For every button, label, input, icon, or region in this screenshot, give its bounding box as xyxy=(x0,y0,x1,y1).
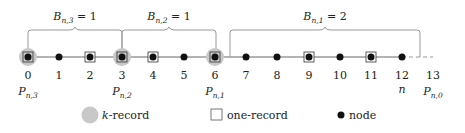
svg-text:11: 11 xyxy=(364,69,378,82)
node-8 xyxy=(274,54,281,61)
one-record-4 xyxy=(148,52,158,62)
svg-text:0: 0 xyxy=(25,69,32,82)
node-1 xyxy=(56,54,63,61)
svg-text:Bn,3 = 1: Bn,3 = 1 xyxy=(52,10,96,25)
svg-text:13: 13 xyxy=(426,69,440,82)
svg-text:2: 2 xyxy=(87,69,94,82)
svg-text:3: 3 xyxy=(119,69,126,82)
one-record-9 xyxy=(304,52,314,62)
svg-text:Pn,1: Pn,1 xyxy=(204,85,224,100)
node-5 xyxy=(181,54,188,61)
svg-text:8: 8 xyxy=(274,69,281,82)
svg-text:7: 7 xyxy=(243,69,250,82)
node-10 xyxy=(337,54,344,61)
svg-text:node: node xyxy=(349,109,376,122)
svg-text:10: 10 xyxy=(333,69,347,82)
svg-text:Pn,0: Pn,0 xyxy=(422,85,443,100)
svg-text:one-record: one-record xyxy=(227,109,288,122)
brace-b-n3: Bn,3 = 1 xyxy=(28,10,122,57)
brace-b-n1: Bn,1 = 2 xyxy=(230,10,420,57)
svg-text:n: n xyxy=(398,83,405,96)
svg-text:5: 5 xyxy=(181,69,188,82)
record-diagram: Bn,3 = 1 Bn,2 = 1 Bn,1 = 2 0 1 2 3 4 5 6… xyxy=(0,0,465,133)
brace-b-n2: Bn,2 = 1 xyxy=(122,10,216,57)
k-record-6 xyxy=(206,48,224,66)
node-icon xyxy=(338,112,345,119)
svg-text:Bn,2 = 1: Bn,2 = 1 xyxy=(146,10,190,25)
svg-text:1: 1 xyxy=(56,69,63,82)
legend: k-record one-record node xyxy=(82,107,377,124)
node-7 xyxy=(243,54,250,61)
one-record-2 xyxy=(85,52,95,62)
svg-text:k-record: k-record xyxy=(102,109,149,122)
svg-text:9: 9 xyxy=(306,69,313,82)
svg-text:Pn,2: Pn,2 xyxy=(111,85,132,100)
one-record-11 xyxy=(366,52,376,62)
svg-text:6: 6 xyxy=(212,69,219,82)
node-12 xyxy=(399,54,406,61)
svg-text:12: 12 xyxy=(395,69,409,82)
k-record-icon xyxy=(82,107,99,124)
svg-text:Pn,3: Pn,3 xyxy=(17,85,38,100)
svg-text:4: 4 xyxy=(150,69,157,82)
position-labels: 0 1 2 3 4 5 6 7 8 9 10 11 12 13 xyxy=(25,69,441,82)
svg-text:Bn,1 = 2: Bn,1 = 2 xyxy=(302,10,346,25)
k-record-3 xyxy=(113,48,131,66)
k-record-0 xyxy=(19,48,37,66)
p-labels: Pn,3 Pn,2 Pn,1 n Pn,0 xyxy=(17,83,443,100)
one-record-icon xyxy=(211,109,222,120)
